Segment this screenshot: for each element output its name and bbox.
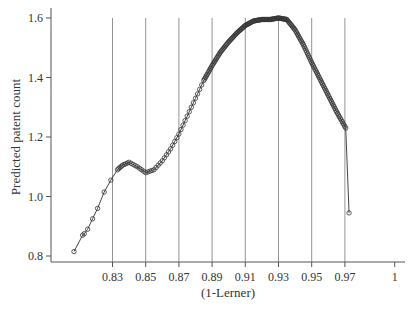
x-axis-ticks: 0.830.850.870.890.910.930.950.971 (102, 262, 398, 284)
x-tick-label: 0.89 (202, 270, 223, 284)
y-axis-ticks: 0.81.01.21.41.6 (28, 11, 51, 263)
y-axis-label: Predicted patent count (8, 78, 23, 195)
data-series (72, 16, 351, 254)
x-tick-label: 0.97 (334, 270, 355, 284)
x-tick-label: 0.85 (135, 270, 156, 284)
y-tick-label: 1.6 (28, 11, 43, 25)
y-tick-label: 0.8 (28, 249, 43, 263)
y-tick-label: 1.0 (28, 190, 43, 204)
x-tick-label: 0.91 (235, 270, 256, 284)
x-tick-label: 0.93 (268, 270, 289, 284)
x-tick-label: 1 (392, 270, 398, 284)
x-tick-label: 0.83 (102, 270, 123, 284)
x-tick-label: 0.87 (168, 270, 189, 284)
line-chart: 0.830.850.870.890.910.930.950.971 0.81.0… (0, 0, 413, 310)
x-tick-label: 0.95 (301, 270, 322, 284)
chart-container: 0.830.850.870.890.910.930.950.971 0.81.0… (0, 0, 413, 310)
x-axis-label: (1-Lerner) (201, 285, 255, 300)
y-tick-label: 1.2 (28, 130, 43, 144)
y-tick-label: 1.4 (28, 71, 43, 85)
